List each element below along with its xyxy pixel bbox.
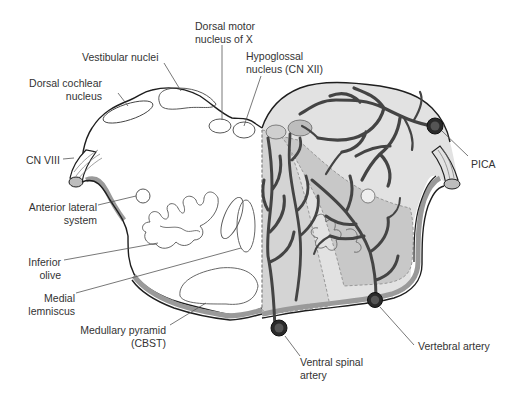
cn-viii-cut-end xyxy=(69,177,83,187)
medulla-right-half xyxy=(262,83,460,319)
label-medial-lemniscus: Medial lemniscus xyxy=(20,292,75,317)
label-vestibular-nuclei: Vestibular nuclei xyxy=(82,51,158,64)
label-anterior-lateral-system: Anterior lateral system xyxy=(22,201,97,226)
label-pica: PICA xyxy=(471,158,496,171)
label-dorsal-cochlear-nucleus: Dorsal cochlear nucleus xyxy=(26,77,102,102)
label-vertebral-artery: Vertebral artery xyxy=(418,340,490,353)
label-inferior-olive: Inferior olive xyxy=(20,256,61,281)
label-medullary-pyramid: Medullary pyramid (CBST) xyxy=(76,324,166,349)
label-cn-viii: CN VIII xyxy=(26,154,60,167)
label-hypoglossal-nucleus: Hypoglossal nucleus (CN XII) xyxy=(246,50,323,75)
label-dorsal-motor-nucleus-x: Dorsal motor nucleus of X xyxy=(195,20,255,45)
label-ventral-spinal-artery: Ventral spinal artery xyxy=(300,356,363,381)
medulla-left-half xyxy=(69,88,262,320)
